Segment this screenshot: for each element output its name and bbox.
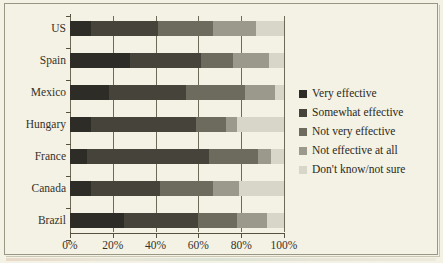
chart-legend: Very effectiveSomewhat effectiveNot very… (299, 84, 439, 179)
legend-swatch-icon (299, 147, 307, 155)
legend-label: Very effective (312, 88, 377, 100)
bar-segment (213, 21, 256, 36)
legend-label: Not very effective (312, 126, 395, 138)
bar-segment (226, 117, 237, 132)
x-tick-label-60pct: 60% (188, 239, 209, 251)
y-tick-label-canada: Canada (4, 182, 66, 194)
y-tick-mark (66, 80, 71, 81)
bar-row (70, 213, 284, 228)
y-tick-mark (66, 16, 71, 17)
bar-segment (91, 181, 159, 196)
y-tick-mark (66, 144, 71, 145)
x-axis-line (70, 233, 285, 234)
y-tick-mark (66, 240, 71, 241)
x-tick-label-80pct: 80% (231, 239, 252, 251)
scan-artifact (6, 258, 436, 261)
legend-label: Somewhat effective (312, 107, 403, 119)
bar-row (70, 53, 284, 68)
bar-segment (233, 53, 269, 68)
legend-swatch-icon (299, 128, 307, 136)
legend-item[interactable]: Very effective (299, 84, 439, 103)
bar-segment (91, 21, 157, 36)
bar-segment (109, 85, 186, 100)
bar-segment (245, 85, 275, 100)
legend-item[interactable]: Not effective at all (299, 141, 439, 160)
plot-area (70, 16, 284, 232)
x-tick-label-40pct: 40% (145, 239, 166, 251)
x-tick-mark (241, 233, 242, 238)
x-tick-mark (113, 233, 114, 238)
legend-item[interactable]: Don't know/not sure (299, 160, 439, 179)
bar-row (70, 21, 284, 36)
legend-swatch-icon (299, 166, 307, 174)
bar-segment (70, 181, 91, 196)
bar-segment (70, 85, 109, 100)
bar-segment (91, 117, 196, 132)
bar-segment (213, 181, 239, 196)
bar-segment (275, 85, 284, 100)
y-tick-mark (66, 208, 71, 209)
y-tick-label-us: US (4, 22, 66, 34)
y-tick-label-hungary: Hungary (4, 118, 66, 130)
legend-swatch-icon (299, 109, 307, 117)
bar-segment (198, 213, 237, 228)
bar-segment (209, 149, 258, 164)
bar-segment (158, 21, 214, 36)
bar-row (70, 149, 284, 164)
y-tick-label-mexico: Mexico (4, 86, 66, 98)
bar-segment (267, 213, 284, 228)
bar-segment (124, 213, 199, 228)
bar-row (70, 181, 284, 196)
x-tick-label-100pct: 100% (271, 239, 298, 251)
x-tick-mark (70, 233, 71, 238)
bar-segment (70, 213, 124, 228)
bar-segment (237, 117, 284, 132)
legend-label: Not effective at all (312, 145, 398, 157)
bar-segment (70, 149, 87, 164)
bar-segment (70, 117, 91, 132)
bar-segment (70, 53, 130, 68)
x-tick-mark (156, 233, 157, 238)
bar-segment (201, 53, 233, 68)
bar-segment (196, 117, 226, 132)
bar-segment (239, 181, 284, 196)
bar-segment (160, 181, 214, 196)
legend-swatch-icon (299, 90, 307, 98)
x-tick-label-20pct: 20% (102, 239, 123, 251)
x-tick-mark (198, 233, 199, 238)
bar-segment (271, 149, 284, 164)
y-tick-label-france: France (4, 150, 66, 162)
y-tick-mark (66, 176, 71, 177)
y-tick-mark (66, 112, 71, 113)
bar-row (70, 85, 284, 100)
bar-segment (258, 149, 271, 164)
y-tick-label-brazil: Brazil (4, 214, 66, 226)
chart-figure: USSpainMexicoHungaryFranceCanadaBrazil 0… (0, 0, 443, 263)
bar-segment (87, 149, 209, 164)
gridline-100pct (284, 16, 285, 232)
legend-label: Don't know/not sure (312, 164, 405, 176)
bar-segment (70, 21, 91, 36)
legend-item[interactable]: Somewhat effective (299, 103, 439, 122)
bar-segment (130, 53, 201, 68)
x-tick-mark (284, 233, 285, 238)
bar-segment (269, 53, 284, 68)
y-axis-labels: USSpainMexicoHungaryFranceCanadaBrazil (0, 0, 66, 263)
legend-item[interactable]: Not very effective (299, 122, 439, 141)
bar-segment (237, 213, 267, 228)
bar-segment (186, 85, 246, 100)
y-tick-mark (66, 48, 71, 49)
bar-segment (256, 21, 284, 36)
bar-row (70, 117, 284, 132)
y-tick-label-spain: Spain (4, 54, 66, 66)
